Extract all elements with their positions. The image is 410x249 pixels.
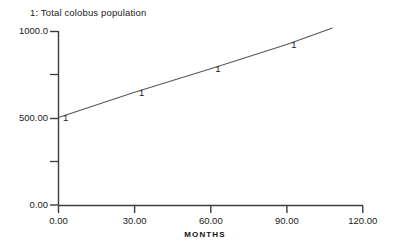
x-axis-title: MONTHS [0,230,410,239]
series-1-marker: 1 [291,39,296,50]
y-tick-label-500: 500.00 [2,113,48,123]
series-1-marker: 1 [139,87,144,98]
x-tick-label-60: 60.00 [199,216,223,226]
y-tick-label-0: 0.00 [2,200,48,210]
y-tick-label-1000: 1000.0 [2,26,48,36]
x-tick-label-0: 0.00 [49,216,68,226]
x-tick-label-120: 120.00 [348,216,377,226]
x-axis-ticks [59,206,363,214]
series-1-marker: 1 [63,112,68,123]
x-tick-label-90: 90.00 [275,216,299,226]
y-axis-ticks [50,32,59,206]
x-tick-label-30: 30.00 [123,216,147,226]
plot-area: 1 1 1 1 [0,0,410,249]
chart-container: 1: Total colobus population 1 [0,0,410,249]
series-1-marker: 1 [215,63,220,74]
